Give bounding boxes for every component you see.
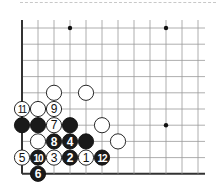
white-stone-7: 7: [46, 118, 61, 133]
stone-circle-icon: [110, 134, 125, 149]
move-number-label: 1: [83, 151, 90, 165]
move-number-label: 12: [97, 153, 108, 164]
white-stone: [30, 101, 45, 116]
move-number-label: 4: [67, 135, 74, 149]
black-stone-6: 6: [30, 166, 45, 181]
move-number-label: 9: [51, 102, 58, 116]
black-stone: [14, 118, 29, 133]
black-stone: [62, 118, 77, 133]
black-stone-8: 8: [46, 134, 61, 149]
stone-circle-icon: [46, 85, 61, 100]
black-stone-10: 10: [30, 150, 45, 165]
white-stone-1: 1: [78, 150, 93, 165]
stone-circle-icon: [30, 134, 45, 149]
white-stone-11: 11: [14, 101, 29, 116]
stone-circle-icon: [30, 118, 45, 133]
white-stone: [78, 85, 93, 100]
move-number-label: 5: [19, 151, 26, 165]
black-stone-12: 12: [94, 150, 109, 165]
move-number-label: 2: [67, 151, 74, 165]
stone-circle-icon: [78, 85, 93, 100]
black-stone: [30, 118, 45, 133]
stone-circle-icon: [62, 118, 77, 133]
move-number-label: 7: [51, 118, 58, 132]
stone-circle-icon: [14, 118, 29, 133]
hoshi-point-icon: [164, 26, 168, 30]
move-number-label: 3: [51, 151, 58, 165]
white-stone-5: 5: [14, 150, 29, 165]
black-stone-4: 4: [62, 134, 77, 149]
move-number-label: 8: [51, 135, 58, 149]
stone-circle-icon: [30, 101, 45, 116]
white-stone: [30, 134, 45, 149]
stone-circle-icon: [78, 134, 93, 149]
stone-circle-icon: [94, 118, 109, 133]
move-number-label: 11: [18, 104, 28, 115]
black-stone: [78, 134, 93, 149]
black-stone-2: 2: [62, 150, 77, 165]
white-stone-3: 3: [46, 150, 61, 165]
move-number-label: 10: [33, 153, 44, 164]
go-board[interactable]: 119784510321126: [0, 0, 218, 193]
white-stone-9: 9: [46, 101, 61, 116]
white-stone: [94, 118, 109, 133]
hoshi-point-icon: [68, 26, 72, 30]
white-stone: [46, 85, 61, 100]
white-stone: [110, 134, 125, 149]
move-number-label: 6: [35, 167, 42, 181]
hoshi-point-icon: [164, 123, 168, 127]
